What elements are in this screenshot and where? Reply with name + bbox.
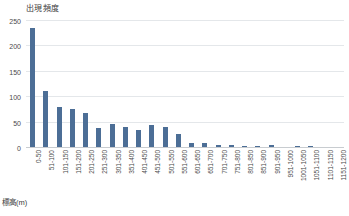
bar[interactable]	[43, 91, 48, 147]
bar[interactable]	[149, 125, 154, 147]
x-axis-tick-label: 1151-1200	[340, 150, 347, 181]
x-label-slot: 401-450	[132, 149, 145, 199]
bar-slot	[53, 20, 66, 147]
bar-slot	[185, 20, 198, 147]
frequency-elevation-bar-chart: 出現頻度 050100150200250 0-5051-100101-15015…	[0, 0, 349, 216]
bar-slot	[225, 20, 238, 147]
x-label-slot: 701-750	[212, 149, 225, 199]
bar-slot	[212, 20, 225, 147]
x-axis-title: 標高(m)	[2, 196, 27, 207]
x-axis-tick-labels: 0-5051-100101-150151-200201-250251-30030…	[26, 149, 344, 199]
y-axis-tick-label: 100	[9, 94, 21, 101]
bar-slot	[92, 20, 105, 147]
bar-slot	[172, 20, 185, 147]
bar-series	[26, 20, 344, 147]
x-label-slot: 301-350	[106, 149, 119, 199]
x-label-slot: 1001-1050	[291, 149, 304, 199]
bar[interactable]	[176, 134, 181, 147]
x-label-slot: 201-250	[79, 149, 92, 199]
x-label-slot: 1051-1100	[304, 149, 317, 199]
x-label-slot: 451-500	[145, 149, 158, 199]
x-label-slot: 1151-1200	[331, 149, 344, 199]
x-label-slot: 901-950	[265, 149, 278, 199]
bar-slot	[291, 20, 304, 147]
x-label-slot: 601-650	[185, 149, 198, 199]
bar-slot	[26, 20, 39, 147]
bar[interactable]	[70, 109, 75, 147]
y-axis-tick-label: 200	[9, 43, 21, 50]
bar-slot	[39, 20, 52, 147]
bar-slot	[278, 20, 291, 147]
bar[interactable]	[57, 107, 62, 147]
bar-slot	[251, 20, 264, 147]
bar-slot	[238, 20, 251, 147]
bar-slot	[66, 20, 79, 147]
x-label-slot: 101-150	[53, 149, 66, 199]
bar-slot	[318, 20, 331, 147]
y-axis-tick-label: 250	[9, 18, 21, 25]
bar[interactable]	[123, 127, 128, 147]
x-label-slot: 651-700	[198, 149, 211, 199]
bar-slot	[79, 20, 92, 147]
chart-title: 出現頻度	[26, 2, 59, 13]
bar[interactable]	[96, 128, 101, 147]
x-label-slot: 801-850	[238, 149, 251, 199]
bar[interactable]	[110, 124, 115, 147]
bar-slot	[198, 20, 211, 147]
y-axis-tick-label: 0	[17, 145, 21, 152]
bar[interactable]	[136, 130, 141, 147]
x-label-slot: 251-300	[92, 149, 105, 199]
bar-slot	[331, 20, 344, 147]
bar-slot	[119, 20, 132, 147]
x-label-slot: 501-550	[159, 149, 172, 199]
x-label-slot: 0-50	[26, 149, 39, 199]
y-axis-tick-label: 150	[9, 68, 21, 75]
bar[interactable]	[30, 28, 35, 147]
bar-slot	[145, 20, 158, 147]
x-label-slot: 851-900	[251, 149, 264, 199]
bar[interactable]	[163, 127, 168, 147]
x-label-slot: 951-1000	[278, 149, 291, 199]
x-label-slot: 151-200	[66, 149, 79, 199]
bar-slot	[159, 20, 172, 147]
y-axis-tick-label: 50	[13, 119, 21, 126]
plot-area	[26, 20, 344, 148]
x-label-slot: 351-400	[119, 149, 132, 199]
x-label-slot: 551-600	[172, 149, 185, 199]
bar-slot	[304, 20, 317, 147]
bar[interactable]	[83, 113, 88, 147]
bar-slot	[265, 20, 278, 147]
x-axis-line	[26, 147, 344, 148]
x-label-slot: 1101-1150	[318, 149, 331, 199]
y-axis-tick-labels: 050100150200250	[0, 20, 24, 148]
bar-slot	[132, 20, 145, 147]
x-label-slot: 751-800	[225, 149, 238, 199]
x-label-slot: 51-100	[39, 149, 52, 199]
bar-slot	[106, 20, 119, 147]
